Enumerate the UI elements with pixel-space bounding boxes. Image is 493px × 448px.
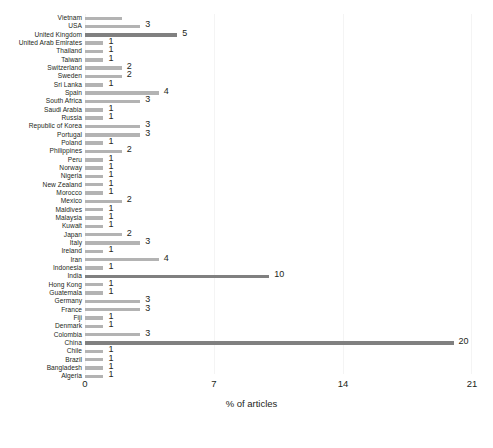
bar-value-label: 3 <box>145 95 150 104</box>
bar <box>85 233 122 236</box>
bar-value-label: 2 <box>127 70 132 79</box>
bar <box>85 325 103 328</box>
bar <box>85 358 103 361</box>
bar <box>85 366 103 369</box>
bar <box>85 75 122 78</box>
bar <box>85 316 103 319</box>
bar <box>85 208 103 211</box>
bar-value-label: 1 <box>108 220 113 229</box>
bar-value-label: 1 <box>108 112 113 121</box>
bar <box>85 141 103 144</box>
bar <box>85 258 159 261</box>
bar-value-label: 3 <box>145 329 150 338</box>
bar-value-label: 2 <box>127 229 132 238</box>
bar <box>85 150 122 153</box>
bar-value-label: 4 <box>164 87 169 96</box>
bar-value-label: 2 <box>127 195 132 204</box>
bar <box>85 183 103 186</box>
bar <box>85 266 103 269</box>
bar-value-label: 3 <box>145 237 150 246</box>
bar <box>85 41 103 44</box>
bar <box>85 225 103 228</box>
x-axis-title-text: % of articles <box>226 398 278 409</box>
bar-value-label: 1 <box>108 245 113 254</box>
x-tick-label: 0 <box>82 378 87 390</box>
bar-value-label: 3 <box>145 304 150 313</box>
bar-value-label: 1 <box>108 320 113 329</box>
bar <box>85 108 103 111</box>
bar <box>85 83 103 86</box>
x-axis: 071421 <box>0 378 493 398</box>
bar <box>85 50 103 53</box>
bar <box>85 175 103 178</box>
bar <box>85 283 103 286</box>
bar-rows: VietnamUSA3United Kingdom5United Arab Em… <box>0 14 493 374</box>
bar <box>85 300 140 303</box>
bar-value-label: 20 <box>459 337 469 346</box>
x-tick-label: 21 <box>467 378 478 390</box>
bar-value-label: 1 <box>108 79 113 88</box>
bar <box>85 216 103 219</box>
bar <box>85 66 122 69</box>
bar <box>85 200 122 203</box>
bar <box>85 158 103 161</box>
bar <box>85 350 103 353</box>
bar-value-label: 1 <box>108 287 113 296</box>
bar-value-label: 1 <box>108 187 113 196</box>
bar <box>85 58 103 61</box>
x-axis-title: % of articles <box>0 398 493 409</box>
bar-value-label: 1 <box>108 137 113 146</box>
bar <box>85 17 122 20</box>
bar <box>85 125 140 128</box>
bar-value-label: 5 <box>182 29 187 38</box>
bar-value-label: 3 <box>145 129 150 138</box>
x-tick-label: 14 <box>338 378 349 390</box>
horizontal-bar-chart: VietnamUSA3United Kingdom5United Arab Em… <box>0 0 493 448</box>
bar-value-label: 1 <box>108 262 113 271</box>
bar-value-label: 1 <box>108 54 113 63</box>
bar <box>85 333 140 336</box>
bar <box>85 166 103 169</box>
bar-value-label: 4 <box>164 254 169 263</box>
bar <box>85 25 140 28</box>
bar <box>85 191 103 194</box>
bar <box>85 341 454 344</box>
bar-value-label: 2 <box>127 145 132 154</box>
bar <box>85 291 103 294</box>
x-tick-label: 7 <box>211 378 216 390</box>
bar-value-label: 3 <box>145 20 150 29</box>
bar-value-label: 10 <box>274 270 284 279</box>
bar <box>85 33 177 36</box>
bar <box>85 116 103 119</box>
bar <box>85 250 103 253</box>
